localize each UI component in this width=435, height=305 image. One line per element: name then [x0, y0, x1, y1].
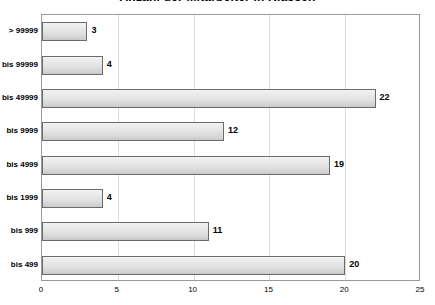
bar-row: 19: [42, 156, 419, 175]
bar-row: 11: [42, 222, 419, 241]
bars-layer: 3422121941120: [42, 15, 419, 280]
bar-value-label: 22: [380, 92, 390, 102]
bar-row: 4: [42, 56, 419, 75]
bar-value-label: 3: [91, 25, 96, 35]
bar-row: 4: [42, 189, 419, 208]
bar[interactable]: [42, 222, 209, 241]
y-axis-category-labels: > 99999bis 99999bis 49999bis 9999bis 499…: [0, 14, 38, 281]
bar[interactable]: [42, 22, 87, 41]
bar[interactable]: [42, 156, 330, 175]
bar[interactable]: [42, 189, 103, 208]
bar-value-label: 12: [228, 125, 238, 135]
category-label: bis 99999: [0, 60, 38, 69]
bar-row: 12: [42, 122, 419, 141]
x-tick-label: 0: [39, 285, 43, 294]
bar-row: 20: [42, 256, 419, 275]
plot-area: 3422121941120: [41, 14, 420, 281]
category-label: > 99999: [0, 26, 38, 35]
x-tick-label: 15: [264, 285, 273, 294]
bar-chart: Anzahl der Mitarbeiter in Klassen > 9999…: [0, 0, 435, 305]
bar-value-label: 19: [334, 159, 344, 169]
bar-row: 22: [42, 89, 419, 108]
x-tick-label: 20: [340, 285, 349, 294]
x-axis-tick-labels: 0510152025: [41, 285, 420, 299]
x-tick-label: 5: [115, 285, 119, 294]
category-label: bis 1999: [0, 193, 38, 202]
bar[interactable]: [42, 256, 345, 275]
bar-row: 3: [42, 22, 419, 41]
category-label: bis 9999: [0, 126, 38, 135]
category-label: bis 499: [0, 260, 38, 269]
x-tick-label: 25: [416, 285, 425, 294]
chart-title: Anzahl der Mitarbeiter in Klassen: [0, 0, 435, 4]
bar-value-label: 20: [349, 259, 359, 269]
bar[interactable]: [42, 122, 224, 141]
bar[interactable]: [42, 56, 103, 75]
bar-value-label: 11: [213, 225, 223, 235]
category-label: bis 4999: [0, 160, 38, 169]
category-label: bis 999: [0, 226, 38, 235]
x-tick-label: 10: [188, 285, 197, 294]
bar-value-label: 4: [107, 192, 112, 202]
category-label: bis 49999: [0, 93, 38, 102]
bar-value-label: 4: [107, 59, 112, 69]
bar[interactable]: [42, 89, 376, 108]
